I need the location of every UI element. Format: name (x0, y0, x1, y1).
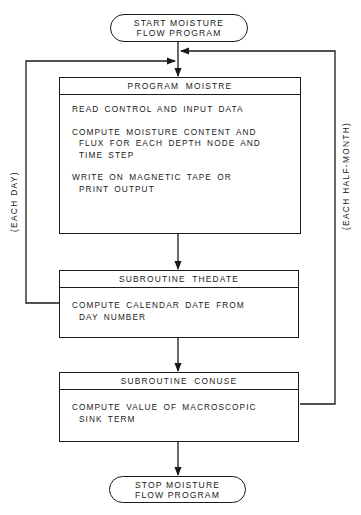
subroutine-conuse-block: SUBROUTINE CONUSE COMPUTE VALUE OF MACRO… (59, 372, 299, 442)
loop-label-each-day: (EACH DAY) (9, 171, 19, 232)
step-line: READ CONTROL AND INPUT DATA (72, 104, 300, 116)
step-line: COMPUTE VALUE OF MACROSCOPIC (72, 402, 298, 414)
step-line: COMPUTE CALENDAR DATE FROM (72, 300, 298, 312)
subroutine-thedate-block: SUBROUTINE THEDATE COMPUTE CALENDAR DATE… (59, 270, 299, 338)
loop-label-each-half-month: (EACH HALF-MONTH) (341, 122, 351, 230)
step-line: TIME STEP (72, 150, 300, 162)
step-line: SINK TERM (72, 414, 298, 426)
step-line: DAY NUMBER (72, 312, 298, 324)
step-line: COMPUTE MOISTURE CONTENT AND (72, 127, 300, 139)
block-title: SUBROUTINE CONUSE (60, 373, 298, 390)
step-line: FLUX FOR EACH DEPTH NODE AND (72, 138, 300, 150)
block-body: COMPUTE VALUE OF MACROSCOPIC SINK TERM (60, 390, 298, 425)
block-body: READ CONTROL AND INPUT DATA COMPUTE MOIS… (60, 95, 300, 196)
stop-terminal-line: FLOW PROGRAM (135, 490, 220, 500)
step-read-input: READ CONTROL AND INPUT DATA (72, 104, 300, 116)
step-line: PRINT OUTPUT (72, 184, 300, 196)
step-line: WRITE ON MAGNETIC TAPE OR (72, 172, 300, 184)
stop-terminal-line: STOP MOISTURE (135, 480, 220, 490)
start-terminal-line: FLOW PROGRAM (137, 28, 222, 38)
block-title: SUBROUTINE THEDATE (60, 271, 298, 288)
step-compute-moisture: COMPUTE MOISTURE CONTENT AND FLUX FOR EA… (72, 127, 300, 162)
block-title: PROGRAM MOISTRE (60, 78, 300, 95)
step-compute-date: COMPUTE CALENDAR DATE FROM DAY NUMBER (72, 300, 298, 323)
start-terminal-line: START MOISTURE (134, 18, 224, 28)
step-compute-sink: COMPUTE VALUE OF MACROSCOPIC SINK TERM (72, 402, 298, 425)
stop-terminal: STOP MOISTURE FLOW PROGRAM (109, 476, 246, 503)
start-terminal: START MOISTURE FLOW PROGRAM (110, 14, 248, 42)
step-write-output: WRITE ON MAGNETIC TAPE OR PRINT OUTPUT (72, 172, 300, 195)
program-moistre-block: PROGRAM MOISTRE READ CONTROL AND INPUT D… (59, 77, 301, 234)
block-body: COMPUTE CALENDAR DATE FROM DAY NUMBER (60, 288, 298, 323)
